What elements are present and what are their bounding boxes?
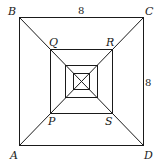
label-s: S [105,115,113,128]
label-c: C [145,5,154,18]
label-b: B [7,5,16,18]
label-a: A [9,149,18,162]
label-q: Q [49,36,58,49]
label-r: R [105,36,114,49]
nested-squares-diagram: B C A D Q R P S 8 8 [0,0,161,165]
side-label-top: 8 [78,5,84,16]
label-p: P [47,115,56,128]
side-label-right: 8 [145,77,151,88]
label-d: D [143,149,153,162]
